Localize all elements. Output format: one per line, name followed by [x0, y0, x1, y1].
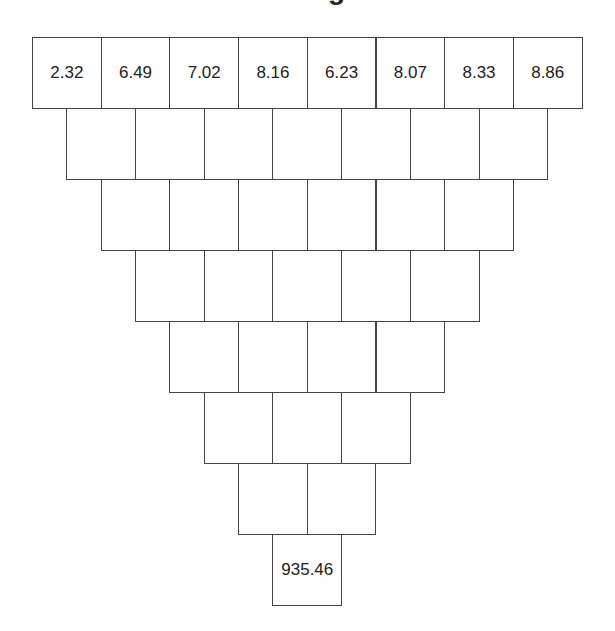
pyramid-cell-r1-c5: 6.23 [307, 37, 377, 109]
pyramid-cell-r4-c5 [410, 250, 480, 322]
pyramid-cell-r5-c1 [169, 321, 239, 393]
pyramid-cell-r2-c2 [135, 108, 205, 180]
pyramid-cell-r3-c3 [238, 179, 308, 251]
pyramid-cell-r1-c4: 8.16 [238, 37, 308, 109]
pyramid-cell-r2-c6 [410, 108, 480, 180]
pyramid-cell-r4-c3 [272, 250, 342, 322]
number-pyramid: 2.326.497.028.166.238.078.338.86935.46 [0, 0, 615, 631]
pyramid-cell-r3-c6 [444, 179, 514, 251]
pyramid-cell-r1-c1: 2.32 [32, 37, 102, 109]
pyramid-cell-r1-c7: 8.33 [444, 37, 514, 109]
pyramid-cell-r2-c3 [204, 108, 274, 180]
pyramid-cell-r7-c2 [307, 463, 377, 535]
pyramid-cell-r3-c5 [376, 179, 446, 251]
pyramid-cell-r1-c8: 8.86 [513, 37, 583, 109]
pyramid-cell-r6-c3 [341, 392, 411, 464]
pyramid-cell-r5-c2 [238, 321, 308, 393]
pyramid-cell-r6-c1 [204, 392, 274, 464]
pyramid-cell-r4-c1 [135, 250, 205, 322]
pyramid-cell-r4-c2 [204, 250, 274, 322]
pyramid-cell-r2-c4 [272, 108, 342, 180]
pyramid-cell-r5-c3 [307, 321, 377, 393]
pyramid-cell-r2-c7 [479, 108, 549, 180]
pyramid-cell-r7-c1 [238, 463, 308, 535]
pyramid-cell-r5-c4 [376, 321, 446, 393]
pyramid-cell-r3-c4 [307, 179, 377, 251]
pyramid-cell-r3-c1 [101, 179, 171, 251]
pyramid-cell-r1-c2: 6.49 [101, 37, 171, 109]
pyramid-cell-r6-c2 [272, 392, 342, 464]
pyramid-cell-r3-c2 [169, 179, 239, 251]
pyramid-cell-r2-c5 [341, 108, 411, 180]
pyramid-cell-r1-c6: 8.07 [376, 37, 446, 109]
pyramid-cell-r2-c1 [66, 108, 136, 180]
pyramid-cell-r4-c4 [341, 250, 411, 322]
pyramid-cell-r8-c1: 935.46 [272, 534, 342, 606]
pyramid-cell-r1-c3: 7.02 [169, 37, 239, 109]
